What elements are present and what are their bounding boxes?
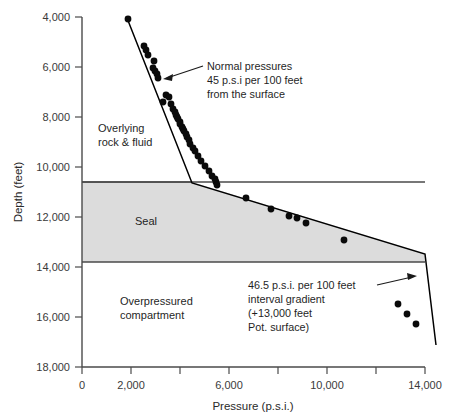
region-label-overpressured-line-2: compartment	[120, 309, 184, 321]
x-tick-label-14000: 14,000	[408, 379, 442, 391]
y-tick-label-4000: 4,000	[42, 11, 70, 23]
data-point	[125, 16, 132, 23]
data-point	[294, 215, 301, 222]
region-label-overpressured: Overpressured compartment	[120, 295, 193, 321]
data-point	[160, 99, 167, 106]
x-tick-label-6000: 6,000	[215, 379, 243, 391]
data-point	[395, 301, 402, 308]
data-point	[341, 237, 348, 244]
annotation-normal-pressures-line-2: 45 p.s.i per 100 feet	[207, 74, 302, 86]
data-point	[286, 213, 293, 220]
annotation-overpressure-gradient-arrowhead	[407, 273, 417, 280]
data-point	[166, 94, 173, 101]
y-tick-label-12000: 12,000	[36, 211, 70, 223]
data-point	[155, 75, 162, 82]
data-point	[243, 195, 250, 202]
y-tick-label-8000: 8,000	[42, 111, 70, 123]
region-label-overlying-line-1: Overlying	[98, 122, 144, 134]
x-tick-label-10000: 10,000	[310, 379, 344, 391]
region-label-overpressured-line-1: Overpressured	[120, 295, 193, 307]
data-point	[145, 52, 152, 59]
annotation-normal-pressures: Normal pressures 45 p.s.i per 100 feet f…	[163, 60, 302, 100]
y-axis-tick-labels: 4,000 6,000 8,000 10,000 12,000 14,000 1…	[36, 11, 70, 373]
x-tick-label-2000: 2,000	[117, 379, 145, 391]
x-axis-tick-labels: 0 2,000 6,000 10,000 14,000	[79, 379, 442, 391]
data-point	[268, 206, 275, 213]
annotation-overpressure-gradient: 46.5 p.s.i. per 100 feet interval gradie…	[248, 273, 417, 333]
data-point	[151, 58, 158, 65]
seal-region-fill	[82, 182, 425, 262]
region-label-overlying: Overlying rock & fluid	[98, 122, 152, 148]
region-label-seal: Seal	[135, 215, 157, 227]
data-point	[413, 321, 420, 328]
x-tick-label-0: 0	[79, 379, 85, 391]
annotation-overpressure-gradient-line-2: interval gradient	[248, 293, 325, 305]
pressure-depth-chart: 4,000 6,000 8,000 10,000 12,000 14,000 1…	[0, 0, 458, 419]
y-tick-label-18000: 18,000	[36, 361, 70, 373]
y-axis-ticks	[75, 17, 82, 367]
annotation-overpressure-gradient-leader	[377, 277, 412, 285]
data-point	[404, 311, 411, 318]
x-axis-title: Pressure (p.s.i.)	[212, 400, 293, 412]
annotation-normal-pressures-line-1: Normal pressures	[207, 60, 293, 72]
data-point	[214, 182, 221, 189]
annotation-normal-pressures-arrowhead	[163, 74, 173, 81]
annotation-overpressure-gradient-line-3: (+13,000 feet	[248, 307, 312, 319]
data-point	[303, 220, 310, 227]
annotation-overpressure-gradient-line-1: 46.5 p.s.i. per 100 feet	[248, 279, 355, 291]
y-tick-label-6000: 6,000	[42, 61, 70, 73]
region-label-overlying-line-2: rock & fluid	[98, 136, 152, 148]
x-axis-ticks	[82, 367, 425, 374]
y-axis-title: Depth (feet)	[12, 161, 24, 222]
seal-region	[82, 182, 425, 262]
y-tick-label-14000: 14,000	[36, 261, 70, 273]
chart-svg: 4,000 6,000 8,000 10,000 12,000 14,000 1…	[0, 0, 458, 419]
y-tick-label-10000: 10,000	[36, 161, 70, 173]
annotation-overpressure-gradient-line-4: Pot. surface)	[248, 321, 309, 333]
y-tick-label-16000: 16,000	[36, 311, 70, 323]
annotation-normal-pressures-line-3: from the surface	[207, 88, 285, 100]
